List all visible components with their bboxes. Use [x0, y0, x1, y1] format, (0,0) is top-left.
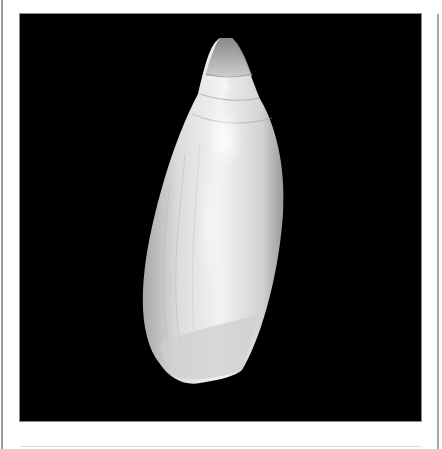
left-border-line [1, 0, 3, 449]
shell-apex [205, 38, 252, 76]
shell-photograph [20, 14, 421, 421]
bottom-border-line [20, 446, 421, 447]
right-border-line [437, 14, 439, 449]
shell-illustration [20, 14, 421, 421]
